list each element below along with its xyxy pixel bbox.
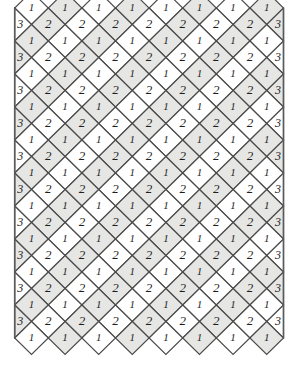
tile-label-2: 2 (79, 214, 86, 229)
tile-label-1: 1 (197, 1, 203, 13)
tile-label-2: 2 (45, 115, 52, 130)
tile-label-edge: 3 (16, 215, 23, 229)
tile-label-2: 2 (146, 214, 153, 229)
tile-label-edge: 3 (274, 248, 281, 262)
tile-label-1: 1 (197, 100, 203, 112)
tile-label-1: 1 (163, 199, 169, 211)
tile-label-1: 1 (62, 265, 68, 277)
tile-label-1: 1 (96, 67, 102, 79)
tile-label-2: 2 (45, 313, 52, 328)
tile-label-1: 1 (130, 265, 136, 277)
tile-label-1: 1 (130, 100, 136, 112)
tile-label-1: 1 (96, 265, 102, 277)
tile-label-1: 1 (163, 1, 169, 13)
tile-label-2: 2 (213, 280, 220, 295)
tile-label-2: 2 (213, 181, 220, 196)
tile-label-edge: 3 (16, 248, 23, 262)
tile-label-1: 1 (29, 133, 35, 145)
tile-label-2: 2 (179, 82, 186, 97)
tile-label-2: 2 (179, 49, 186, 64)
tile-label-2: 2 (179, 181, 186, 196)
tile-label-edge: 3 (274, 50, 281, 64)
tile-label-1: 1 (96, 34, 102, 46)
tile-label-1: 1 (62, 166, 68, 178)
tile-label-edge: 3 (16, 281, 23, 295)
tile-label-1: 1 (264, 34, 270, 46)
tile-label-2: 2 (146, 49, 153, 64)
tile-label-1: 1 (264, 265, 270, 277)
tile-label-edge: 3 (274, 17, 281, 31)
tile-label-edge: 3 (274, 215, 281, 229)
tile-label-2: 2 (146, 247, 153, 262)
tile-label-1: 1 (230, 34, 236, 46)
tile-label-1: 1 (62, 232, 68, 244)
tile-label-2: 2 (79, 82, 86, 97)
tile-label-2: 2 (79, 49, 86, 64)
tile-label-1: 1 (96, 232, 102, 244)
tile-label-1: 1 (29, 298, 35, 310)
tile-label-1: 1 (62, 67, 68, 79)
tile-label-2: 2 (146, 115, 153, 130)
tile-label-2: 2 (45, 214, 52, 229)
tile-label-1: 1 (197, 166, 203, 178)
tile-label-2: 2 (45, 82, 52, 97)
tile-label-1: 1 (230, 232, 236, 244)
tile-label-1: 1 (163, 298, 169, 310)
tile-label-1: 1 (230, 166, 236, 178)
tile-label-2: 2 (79, 16, 86, 31)
tile-label-2: 2 (112, 148, 119, 163)
tile-label-2: 2 (146, 313, 153, 328)
diamond-lattice-figure: 1111111122222223311111111222222233111111… (0, 0, 303, 379)
tile-label-1: 1 (29, 166, 35, 178)
tile-label-1: 1 (230, 199, 236, 211)
tile-label-2: 2 (247, 247, 254, 262)
tile-label-2: 2 (179, 16, 186, 31)
tile-label-1: 1 (62, 34, 68, 46)
tile-label-1: 1 (197, 34, 203, 46)
tile-label-1: 1 (264, 100, 270, 112)
tile-label-2: 2 (112, 214, 119, 229)
tile-label-2: 2 (112, 181, 119, 196)
tile-label-2: 2 (247, 313, 254, 328)
tile-label-1: 1 (130, 199, 136, 211)
tile-label-edge: 3 (274, 281, 281, 295)
tile-label-2: 2 (247, 214, 254, 229)
tile-label-1: 1 (230, 298, 236, 310)
tile-label-2: 2 (45, 280, 52, 295)
tile-label-1: 1 (264, 298, 270, 310)
tile-label-2: 2 (179, 148, 186, 163)
tile-label-2: 2 (247, 49, 254, 64)
tile-label-2: 2 (112, 49, 119, 64)
tile-label-1: 1 (264, 199, 270, 211)
tile-label-1: 1 (29, 199, 35, 211)
tile-label-edge: 3 (16, 182, 23, 196)
tile-label-2: 2 (79, 181, 86, 196)
tile-label-2: 2 (213, 16, 220, 31)
tile-label-1: 1 (163, 34, 169, 46)
tile-label-2: 2 (213, 214, 220, 229)
tile-label-2: 2 (79, 247, 86, 262)
tile-label-1: 1 (197, 298, 203, 310)
tile-label-1: 1 (197, 67, 203, 79)
tile-label-1: 1 (62, 298, 68, 310)
tile-label-1: 1 (96, 298, 102, 310)
tile-label-1: 1 (163, 133, 169, 145)
tile-label-1: 1 (264, 1, 270, 13)
tile-label-1: 1 (96, 166, 102, 178)
tile-label-1: 1 (230, 67, 236, 79)
tile-label-2: 2 (179, 313, 186, 328)
tile-label-1: 1 (62, 199, 68, 211)
tile-label-1: 1 (29, 331, 35, 343)
tile-label-1: 1 (62, 133, 68, 145)
tile-label-2: 2 (146, 280, 153, 295)
tile-label-2: 2 (179, 115, 186, 130)
tile-label-2: 2 (247, 16, 254, 31)
tile-label-2: 2 (247, 115, 254, 130)
tile-label-2: 2 (79, 115, 86, 130)
tile-label-1: 1 (96, 133, 102, 145)
tile-label-2: 2 (247, 181, 254, 196)
tile-label-1: 1 (264, 67, 270, 79)
tile-label-1: 1 (230, 265, 236, 277)
tile-label-edge: 3 (16, 314, 23, 328)
tile-label-edge: 3 (274, 116, 281, 130)
